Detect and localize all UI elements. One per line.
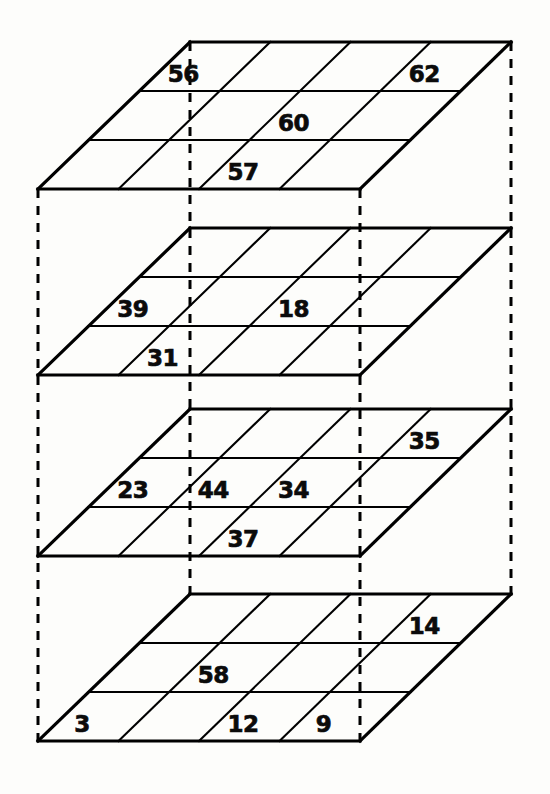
layered-grid-svg bbox=[0, 0, 550, 794]
grid-layer-3 bbox=[38, 409, 511, 556]
layer-1-column-line-2 bbox=[199, 42, 351, 189]
layer-2-diagonal-edge-4 bbox=[360, 228, 511, 375]
cell-value-35: 35 bbox=[409, 430, 440, 453]
cell-value-34: 34 bbox=[278, 479, 309, 502]
cell-value-58: 58 bbox=[198, 664, 229, 687]
diagram-canvas: 56626057391831352344343714581239 bbox=[0, 0, 550, 794]
cell-value-62: 62 bbox=[409, 63, 440, 86]
corner-pillars bbox=[38, 42, 511, 741]
cell-value-56: 56 bbox=[168, 63, 199, 86]
layer-3-diagonal-edge-0 bbox=[38, 409, 190, 556]
cell-value-18: 18 bbox=[278, 298, 309, 321]
cell-value-37: 37 bbox=[228, 528, 259, 551]
cell-value-23: 23 bbox=[117, 479, 148, 502]
cell-value-12: 12 bbox=[228, 713, 259, 736]
cell-value-44: 44 bbox=[198, 479, 229, 502]
cell-value-3: 3 bbox=[74, 713, 90, 736]
grid-layer-1 bbox=[38, 42, 511, 189]
cell-value-14: 14 bbox=[409, 615, 440, 638]
grid-layer-4 bbox=[38, 594, 511, 741]
cell-value-31: 31 bbox=[147, 347, 178, 370]
cell-value-39: 39 bbox=[117, 298, 148, 321]
cell-value-57: 57 bbox=[228, 161, 259, 184]
layer-4-diagonal-edge-0 bbox=[38, 594, 190, 741]
cell-value-60: 60 bbox=[278, 112, 309, 135]
cell-value-9: 9 bbox=[316, 713, 332, 736]
layer-2-column-line-2 bbox=[199, 228, 351, 375]
grid-layer-2 bbox=[38, 228, 511, 375]
